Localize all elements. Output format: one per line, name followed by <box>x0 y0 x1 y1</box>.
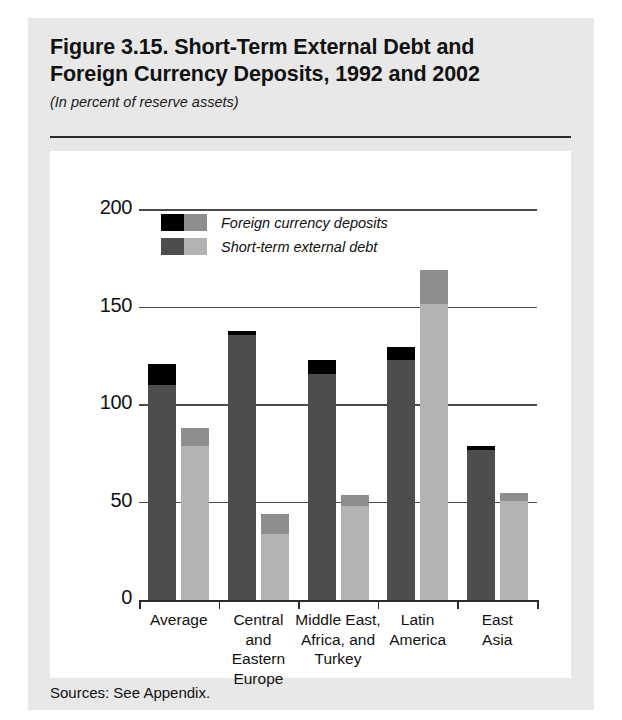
x-axis-line <box>139 600 539 602</box>
chart-legend: Foreign currency depositsShort-term exte… <box>161 212 461 260</box>
bar-segment-debt <box>228 335 256 600</box>
bar-1992-4 <box>467 446 495 600</box>
y-axis-tick-label: 50 <box>50 489 132 512</box>
bar-segment-debt <box>341 506 369 600</box>
bar-2002-3 <box>420 270 448 600</box>
figure-panel: Figure 3.15. Short-Term External Debt an… <box>28 18 594 710</box>
x-axis-labels: AverageCentral and Eastern EuropeMiddle … <box>50 610 571 690</box>
gridline-200 <box>139 209 537 211</box>
bar-segment-debt <box>467 450 495 600</box>
chart-plot-card: 050100150200 Foreign currency depositsSh… <box>50 151 571 678</box>
bar-segment-deposits <box>308 360 336 374</box>
x-axis-tick <box>537 602 539 609</box>
x-axis-tick <box>298 602 300 609</box>
bar-segment-debt <box>181 446 209 600</box>
bar-2002-0 <box>181 428 209 600</box>
bar-segment-debt <box>261 534 289 600</box>
bar-1992-3 <box>387 347 415 601</box>
legend-swatch-deposits <box>161 214 207 231</box>
page-title: Figure 3.15. Short-Term External Debt an… <box>50 34 570 88</box>
bar-1992-1 <box>228 331 256 600</box>
bar-segment-deposits <box>148 364 176 385</box>
x-axis-tick <box>457 602 459 609</box>
y-axis-tick-label: 100 <box>50 391 132 414</box>
x-axis-tick <box>219 602 221 609</box>
legend-label: Foreign currency deposits <box>221 215 388 231</box>
bar-1992-0 <box>148 364 176 600</box>
bar-1992-2 <box>308 360 336 600</box>
bar-2002-2 <box>341 495 369 600</box>
bar-segment-debt <box>308 374 336 600</box>
y-axis-tick-label: 200 <box>50 196 132 219</box>
x-axis-category-label: East Asia <box>437 610 557 649</box>
legend-item-deposits: Foreign currency deposits <box>161 212 461 233</box>
bar-segment-deposits <box>387 347 415 361</box>
bar-segment-debt <box>500 501 528 600</box>
bar-segment-deposits <box>500 493 528 501</box>
x-axis-tick <box>139 602 141 609</box>
y-axis-tick-label: 150 <box>50 294 132 317</box>
bar-segment-deposits <box>341 495 369 507</box>
y-axis-tick-label: 0 <box>50 586 132 609</box>
bar-segment-debt <box>387 360 415 600</box>
header-divider <box>50 136 571 138</box>
figure-subtitle: (In percent of reserve assets) <box>50 92 570 112</box>
x-axis-tick <box>378 602 380 609</box>
bar-segment-deposits <box>181 428 209 446</box>
legend-swatch-debt <box>161 238 207 255</box>
figure-header: Figure 3.15. Short-Term External Debt an… <box>50 34 570 112</box>
gridline-150 <box>139 307 537 309</box>
bar-segment-debt <box>148 385 176 600</box>
gridline-100 <box>139 404 537 406</box>
bar-2002-1 <box>261 514 289 600</box>
bar-segment-deposits <box>420 270 448 303</box>
source-note: Sources: See Appendix. <box>50 684 210 701</box>
legend-item-debt: Short-term external debt <box>161 236 461 257</box>
bar-segment-debt <box>420 304 448 600</box>
legend-label: Short-term external debt <box>221 239 377 255</box>
bar-segment-deposits <box>261 514 289 534</box>
bar-2002-4 <box>500 493 528 600</box>
